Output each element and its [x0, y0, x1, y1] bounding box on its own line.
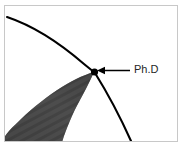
intersection-point [91, 68, 98, 75]
annotation-arrow [97, 67, 130, 74]
annotation-label: Ph.D [134, 63, 158, 76]
figure-canvas: Ph.D [0, 0, 184, 148]
specialization-wedge [2, 72, 94, 148]
